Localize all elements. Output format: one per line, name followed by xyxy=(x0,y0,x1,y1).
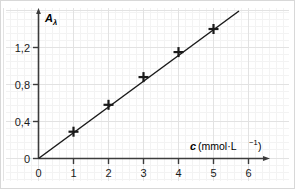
y-tick-label-2: 0,8 xyxy=(15,79,30,91)
x-tick-label-5: 5 xyxy=(210,167,216,179)
x-axis-title-symbol: c xyxy=(190,140,196,152)
y-axis-title-subscript: λ xyxy=(52,18,57,27)
absorbance-vs-concentration-chart: 1,2 0,8 0,4 0 0 1 2 3 4 5 6 A λ c (mmol·… xyxy=(0,0,295,189)
x-tick-label-6: 6 xyxy=(245,167,251,179)
chart-figure: 1,2 0,8 0,4 0 0 1 2 3 4 5 6 A λ c (mmol·… xyxy=(0,0,295,189)
x-axis-title-unit: (mmol·L xyxy=(198,140,237,152)
x-tick-label-3: 3 xyxy=(140,167,146,179)
y-tick-label-3: 1,2 xyxy=(15,42,30,54)
x-tick-label-2: 2 xyxy=(105,167,111,179)
chart-background xyxy=(0,0,295,189)
y-tick-label-1: 0,4 xyxy=(15,116,30,128)
x-tick-label-1: 1 xyxy=(70,167,76,179)
x-axis-title-unit-close: ) xyxy=(258,140,262,152)
x-axis-title-unit-exponent: −1 xyxy=(249,138,258,147)
y-tick-label-0: 0 xyxy=(24,153,30,165)
x-tick-label-0: 0 xyxy=(35,167,41,179)
y-axis-title-symbol: A xyxy=(44,12,53,24)
x-tick-label-4: 4 xyxy=(175,167,181,179)
